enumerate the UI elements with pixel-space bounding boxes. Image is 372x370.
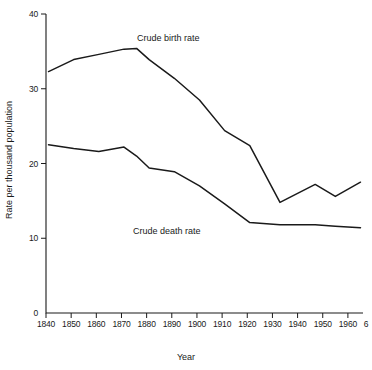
x-tick-label: 1910: [213, 319, 231, 329]
x-tick-label: 1920: [238, 319, 256, 329]
axis-lines: [46, 14, 363, 313]
series-line-crude-birth-rate: [49, 48, 361, 202]
series-line-crude-death-rate: [49, 145, 361, 228]
x-tick-label: 1880: [138, 319, 156, 329]
x-tick-label: 1900: [188, 319, 206, 329]
y-axis-title: Rate per thousand population: [4, 65, 14, 255]
x-axis-ticks: [46, 313, 348, 318]
chart-plot-area: [0, 0, 372, 370]
x-tick-label: 1840: [37, 319, 55, 329]
chart-axes: [41, 14, 363, 318]
chart-figure: 1840185018601870188018901900191019201930…: [0, 0, 372, 370]
x-axis-title: Year: [0, 352, 372, 362]
x-tick-label-end: 6: [364, 319, 369, 329]
x-tick-label: 1960: [339, 319, 357, 329]
series-annotation: Crude death rate: [133, 226, 201, 236]
x-tick-label: 1870: [112, 319, 130, 329]
x-tick-label: 1950: [314, 319, 332, 329]
y-tick-label: 20: [14, 159, 38, 169]
chart-series-lines: [49, 48, 361, 227]
y-axis-ticks: [41, 14, 46, 238]
x-tick-label: 1930: [263, 319, 281, 329]
y-tick-label: 30: [14, 84, 38, 94]
y-tick-label: 40: [14, 9, 38, 19]
x-tick-label: 1860: [87, 319, 105, 329]
x-tick-label: 1850: [62, 319, 80, 329]
y-tick-label: 0: [14, 308, 38, 318]
x-tick-label: 1890: [163, 319, 181, 329]
y-tick-label: 10: [14, 233, 38, 243]
series-annotation: Crude birth rate: [137, 33, 200, 43]
x-tick-label: 1940: [289, 319, 307, 329]
